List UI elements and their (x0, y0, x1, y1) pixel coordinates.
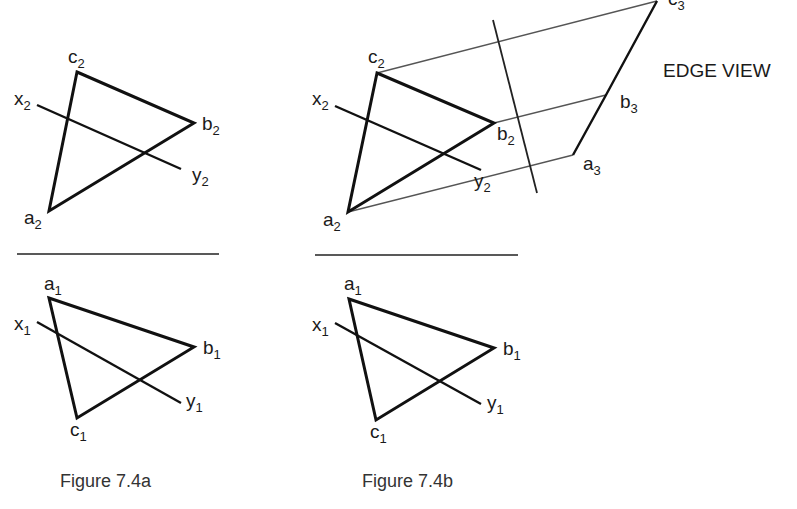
label-x2: x2 (312, 88, 329, 113)
figure-7-4a: c2 x2 b2 y2 a2 a1 x1 b1 y1 c1 Figure 7.4… (14, 46, 221, 491)
edge-view-label: EDGE VIEW (663, 60, 771, 81)
label-x1: x1 (312, 314, 329, 339)
label-c2: c2 (368, 46, 385, 71)
label-a2: a2 (24, 207, 42, 232)
label-b2: b2 (202, 113, 220, 138)
label-c2: c2 (68, 46, 85, 71)
label-x2: x2 (14, 88, 31, 113)
label-a1: a1 (344, 273, 362, 298)
label-b2: b2 (497, 123, 515, 148)
label-c1: c1 (70, 419, 87, 444)
line-xy-view2 (335, 106, 481, 170)
label-y2: y2 (192, 164, 209, 189)
label-y2: y2 (474, 170, 491, 195)
label-a2: a2 (323, 209, 341, 234)
caption-figure-7-4a: Figure 7.4a (60, 471, 152, 491)
label-b1: b1 (203, 337, 221, 362)
descriptive-geometry-diagram: c2 x2 b2 y2 a2 a1 x1 b1 y1 c1 Figure 7.4… (0, 0, 797, 509)
label-c1: c1 (370, 421, 387, 446)
label-b1: b1 (503, 338, 521, 363)
projector-a (348, 155, 573, 212)
figure-7-4b: c2 x2 b2 y2 a2 c3 b3 a3 EDGE VIEW a1 x1 … (312, 0, 771, 491)
label-b3: b3 (620, 91, 638, 116)
projector-b (494, 95, 606, 123)
label-a3: a3 (583, 153, 601, 178)
caption-figure-7-4b: Figure 7.4b (362, 471, 453, 491)
projector-c (377, 1, 657, 73)
fold-line-2-3 (493, 20, 537, 193)
triangle-abc-view1 (349, 299, 494, 420)
label-y1: y1 (186, 390, 203, 415)
label-x1: x1 (14, 313, 31, 338)
label-a1: a1 (44, 273, 62, 298)
edge-view-line (573, 1, 657, 155)
triangle-abc-view1 (49, 298, 194, 418)
label-c3: c3 (668, 0, 685, 13)
label-y1: y1 (487, 392, 504, 417)
